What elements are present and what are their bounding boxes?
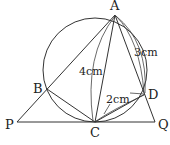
label-Q: Q xyxy=(158,117,169,132)
label-B: B xyxy=(33,81,43,96)
label-C: C xyxy=(90,125,100,140)
geometry-diagram: A B C D P Q 4cm 3cm 2cm xyxy=(0,0,170,145)
label-D: D xyxy=(148,87,158,102)
line-BC xyxy=(47,89,95,122)
label-P: P xyxy=(5,117,14,132)
measure-label-CD: 2cm xyxy=(106,93,130,106)
measure-label-AD: 3cm xyxy=(134,46,158,59)
measure-label-AC: 4cm xyxy=(79,65,103,78)
label-A: A xyxy=(109,0,120,13)
